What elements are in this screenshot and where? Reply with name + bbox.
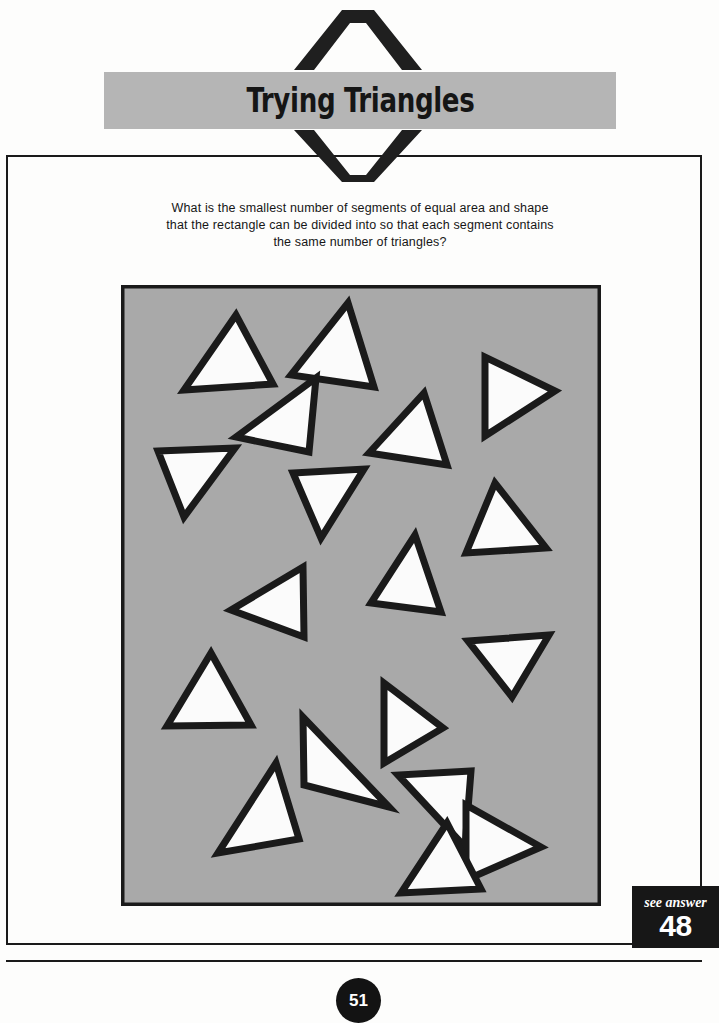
- chevron-down-icon: [292, 128, 424, 188]
- page-number: 51: [349, 992, 368, 1009]
- footer-rule: [6, 960, 702, 962]
- page-title: Trying Triangles: [246, 84, 474, 117]
- chevron-up-icon: [292, 8, 424, 76]
- see-answer-box[interactable]: see answer 48: [632, 886, 719, 948]
- see-answer-number: 48: [659, 911, 691, 941]
- puzzle-figure: [121, 285, 601, 906]
- page-number-badge: 51: [336, 978, 381, 1023]
- question-text: What is the smallest number of segments …: [160, 200, 560, 251]
- title-banner: Trying Triangles: [104, 72, 616, 129]
- see-answer-label: see answer: [644, 896, 707, 910]
